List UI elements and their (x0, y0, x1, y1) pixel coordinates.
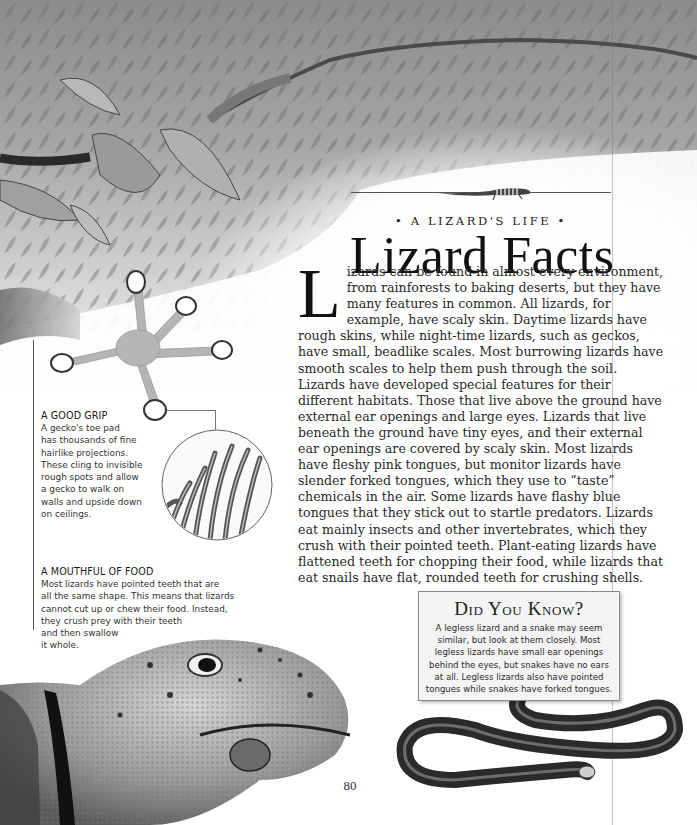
callout-line (215, 410, 216, 430)
callout-line (167, 410, 216, 411)
caption-rule (33, 340, 34, 630)
toe-pad-magnified-inset (160, 428, 274, 542)
body-text: Lizards can be found in almost every env… (298, 264, 666, 586)
lizard-head-photo (0, 605, 360, 825)
did-you-know-text: A legless lizard and a snake may seem si… (423, 622, 615, 695)
page-number: 80 (330, 778, 370, 794)
did-you-know-title: Did You Know? (419, 598, 619, 620)
caption-good-grip: A GOOD GRIP A gecko's toe pad has thousa… (41, 410, 171, 520)
gecko-foot-illustration (0, 250, 240, 430)
caption-text: A gecko's toe pad has thousands of fine … (41, 422, 171, 520)
caption-title: A GOOD GRIP (41, 410, 171, 422)
striped-lizard-ornament-icon (435, 181, 535, 201)
legless-lizard-photo (395, 690, 695, 805)
did-you-know-box: Did You Know? A legless lizard and a sna… (418, 591, 620, 701)
caption-title: A MOUTHFUL OF FOOD (41, 566, 271, 578)
body-paragraph: izards can be found in almost every envi… (298, 264, 663, 585)
drop-cap: L (298, 268, 341, 320)
